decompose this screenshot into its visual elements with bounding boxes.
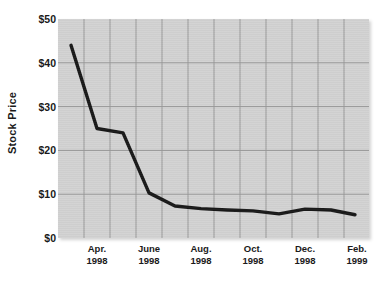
- y-tick-label: $20: [26, 144, 56, 156]
- y-tick-label: $30: [26, 101, 56, 113]
- y-axis-tick-labels: $0$10$20$30$40$50: [22, 0, 56, 284]
- x-tick-label: Feb.1999: [346, 243, 367, 267]
- y-tick-label: $40: [26, 57, 56, 69]
- stock-price-line: [71, 45, 355, 215]
- y-axis-title-text: Stock Price: [6, 91, 18, 153]
- x-tick-year: 1998: [294, 255, 315, 267]
- x-tick-month: Dec.: [294, 243, 315, 255]
- stock-price-line-chart: Stock Price $0$10$20$30$40$50 Apr.1998Ju…: [0, 0, 388, 284]
- x-tick-label: Apr.1998: [86, 243, 107, 267]
- x-tick-month: Apr.: [86, 243, 107, 255]
- y-tick-label: $10: [26, 188, 56, 200]
- x-tick-month: Aug.: [190, 243, 211, 255]
- x-tick-year: 1998: [138, 255, 160, 267]
- plot-svg: [58, 19, 369, 238]
- x-tick-year: 1998: [242, 255, 263, 267]
- plot-area: [58, 19, 369, 238]
- x-tick-year: 1999: [346, 255, 367, 267]
- x-axis-tick-labels: Apr.1998June1998Aug.1998Oct.1998Dec.1998…: [58, 243, 369, 283]
- y-axis-title: Stock Price: [0, 0, 24, 245]
- x-tick-month: June: [138, 243, 160, 255]
- x-tick-year: 1998: [86, 255, 107, 267]
- y-tick-label: $50: [26, 13, 56, 25]
- x-tick-month: Feb.: [346, 243, 367, 255]
- x-tick-label: Oct.1998: [242, 243, 263, 267]
- y-tick-label: $0: [26, 232, 56, 244]
- x-tick-label: Aug.1998: [190, 243, 211, 267]
- vertical-gridlines: [84, 19, 344, 238]
- x-tick-year: 1998: [190, 255, 211, 267]
- x-tick-month: Oct.: [242, 243, 263, 255]
- x-tick-label: Dec.1998: [294, 243, 315, 267]
- x-tick-label: June1998: [138, 243, 160, 267]
